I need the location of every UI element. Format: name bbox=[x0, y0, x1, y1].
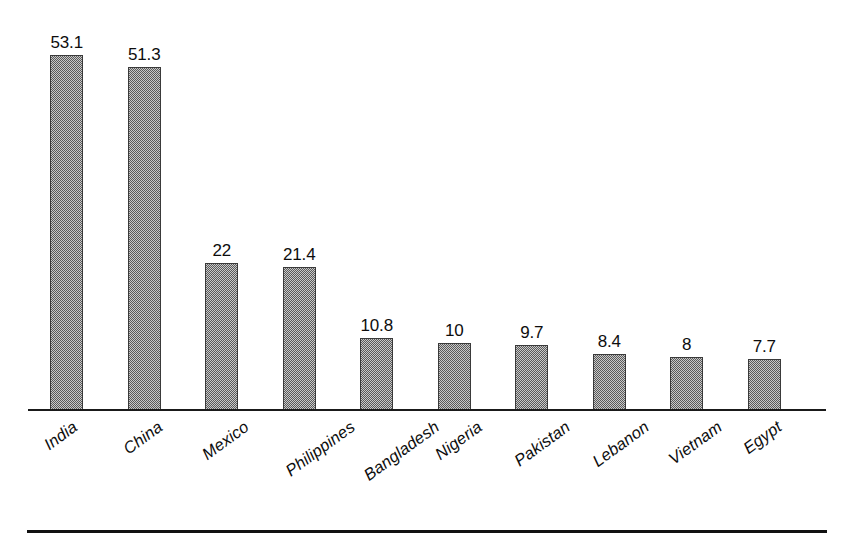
cat-slot-3: Philippines bbox=[261, 412, 339, 502]
bar-group-5: 10 bbox=[416, 10, 494, 410]
cat-slot-5: Nigeria bbox=[416, 412, 494, 502]
cat-slot-1: China bbox=[106, 412, 184, 502]
bar-value-label: 53.1 bbox=[51, 34, 83, 51]
bar-value-label: 7.7 bbox=[753, 338, 776, 355]
bar-rect bbox=[438, 343, 471, 410]
cat-slot-0: India bbox=[28, 412, 106, 502]
bar-group-8: 8 bbox=[648, 10, 726, 410]
bar-value-label: 21.4 bbox=[283, 246, 315, 263]
bar-series: 53.1 51.3 22 21.4 10.8 10 bbox=[28, 10, 828, 410]
bar-group-3: 21.4 bbox=[261, 10, 339, 410]
bar-group-1: 51.3 bbox=[106, 10, 184, 410]
x-tick-label-egypt: Egypt bbox=[740, 418, 785, 457]
x-axis-category-labels: India China Mexico Philippines Banglades… bbox=[28, 412, 828, 502]
bar-group-4: 10.8 bbox=[338, 10, 416, 410]
bar-rect bbox=[670, 357, 703, 410]
bar-rect bbox=[283, 267, 316, 410]
cat-slot-8: Vietnam bbox=[648, 412, 726, 502]
x-tick-label-pakistan: Pakistan bbox=[511, 418, 573, 469]
x-tick-label-india: India bbox=[41, 418, 80, 453]
bottom-divider-rule bbox=[27, 530, 827, 533]
bar-rect bbox=[515, 345, 548, 410]
bar-group-7: 8.4 bbox=[571, 10, 649, 410]
x-tick-label-mexico: Mexico bbox=[199, 418, 252, 463]
bar-rect bbox=[748, 359, 781, 410]
bar-group-0: 53.1 bbox=[28, 10, 106, 410]
bar-value-label: 8.4 bbox=[598, 333, 621, 350]
cat-slot-9: Egypt bbox=[726, 412, 804, 502]
bar-value-label: 8 bbox=[682, 336, 691, 353]
x-tick-label-lebanon: Lebanon bbox=[589, 418, 652, 470]
plot-area: 53.1 51.3 22 21.4 10.8 10 bbox=[28, 10, 828, 410]
bar-group-2: 22 bbox=[183, 10, 261, 410]
bar-value-label: 9.7 bbox=[520, 324, 543, 341]
bar-value-label: 51.3 bbox=[128, 46, 160, 63]
bar-rect bbox=[50, 55, 83, 410]
bar-value-label: 10.8 bbox=[361, 317, 393, 334]
bar-rect bbox=[593, 354, 626, 410]
bar-value-label: 22 bbox=[212, 242, 231, 259]
x-axis-line bbox=[28, 409, 826, 411]
x-tick-label-vietnam: Vietnam bbox=[666, 418, 725, 468]
cat-slot-2: Mexico bbox=[183, 412, 261, 502]
cat-slot-7: Lebanon bbox=[571, 412, 649, 502]
cat-slot-6: Pakistan bbox=[493, 412, 571, 502]
bar-rect bbox=[205, 263, 238, 410]
cat-slot-4: Bangladesh bbox=[338, 412, 416, 502]
bar-rect bbox=[128, 67, 161, 410]
bar-rect bbox=[360, 338, 393, 410]
bar-group-6: 9.7 bbox=[493, 10, 571, 410]
x-tick-label-nigeria: Nigeria bbox=[432, 418, 485, 463]
bar-value-label: 10 bbox=[445, 322, 464, 339]
x-tick-label-china: China bbox=[120, 418, 165, 457]
bar-group-9: 7.7 bbox=[726, 10, 804, 410]
bar-chart-figure: 53.1 51.3 22 21.4 10.8 10 bbox=[0, 0, 863, 539]
